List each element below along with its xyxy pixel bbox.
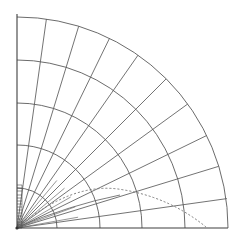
diagram-canvas (0, 0, 240, 248)
polar-quadrant-diagram (0, 0, 240, 248)
origin-marker (15, 226, 18, 229)
canvas-background (0, 0, 240, 248)
